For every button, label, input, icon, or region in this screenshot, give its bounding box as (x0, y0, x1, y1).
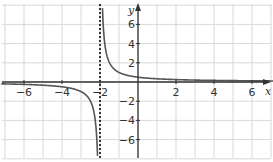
y-tick-label: −6 (119, 134, 135, 147)
y-tick-label: 4 (128, 38, 135, 51)
y-axis-label: y (127, 4, 135, 17)
x-axis-label: x (265, 85, 272, 98)
y-tick-label: 2 (128, 57, 135, 70)
y-tick-label: −4 (119, 114, 135, 127)
x-tick-label: −6 (16, 86, 32, 99)
x-tick-label: −2 (92, 86, 108, 99)
x-tick-label: 2 (173, 86, 180, 99)
y-tick-label: −2 (119, 95, 135, 108)
x-tick-label: 4 (211, 86, 218, 99)
x-tick-label: 6 (249, 86, 256, 99)
y-tick-label: 6 (128, 18, 135, 31)
x-tick-label: −4 (54, 86, 70, 99)
function-graph: −6−4−2246−6−4−2246 x y (0, 0, 273, 162)
